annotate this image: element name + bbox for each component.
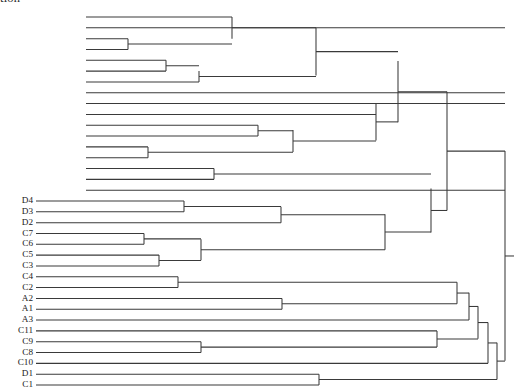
dendrogram-leaf-lines-group — [36, 17, 505, 385]
leaf-label-c6: C6 — [22, 238, 33, 248]
leaf-label-c2: C2 — [22, 282, 33, 292]
leaf-label-c9: C9 — [22, 336, 33, 346]
leaf-label-c1: C1 — [22, 379, 33, 389]
leaf-label-a1: A1 — [22, 303, 34, 313]
dendrogram-leaf-labels-group: D4D3D2C7C6C5C3C4C2A2A1A3C11C9C8C10D1C1 — [18, 195, 34, 389]
dendrogram-links-group — [128, 17, 505, 385]
leaf-label-d4: D4 — [22, 195, 34, 205]
leaf-label-d3: D3 — [22, 206, 34, 216]
leaf-label-c4: C4 — [22, 271, 33, 281]
leaf-label-c10: C10 — [18, 357, 34, 367]
leaf-label-d2: D2 — [22, 217, 34, 227]
dendrogram-figure: tion D4D3D2C7C6C5C3C4C2A2A1A3C11C9C8C10D… — [0, 0, 514, 390]
leaf-label-a3: A3 — [22, 314, 34, 324]
dendrogram-plot: D4D3D2C7C6C5C3C4C2A2A1A3C11C9C8C10D1C1 — [0, 0, 514, 390]
leaf-label-c3: C3 — [22, 260, 33, 270]
leaf-label-d1: D1 — [22, 368, 34, 378]
leaf-label-c5: C5 — [22, 249, 33, 259]
leaf-label-a2: A2 — [22, 293, 34, 303]
leaf-label-c7: C7 — [22, 228, 33, 238]
leaf-label-c11: C11 — [18, 325, 33, 335]
leaf-label-c8: C8 — [22, 347, 33, 357]
